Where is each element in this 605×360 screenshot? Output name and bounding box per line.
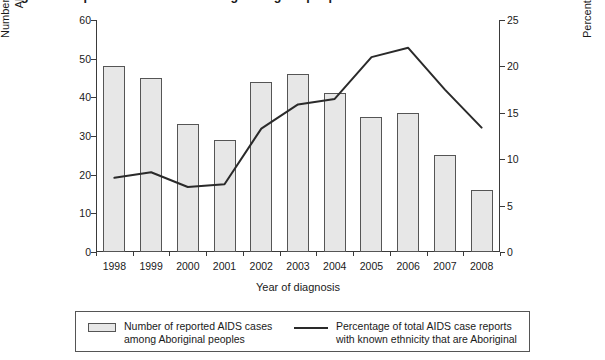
right-tick-label: 10 <box>507 154 519 164</box>
x-tick-mark <box>463 252 464 256</box>
x-tick-label: 2007 <box>433 260 456 272</box>
left-tick-label: 10 <box>79 208 91 218</box>
legend-bar-swatch-icon <box>88 323 116 332</box>
right-tick-mark <box>500 66 505 67</box>
legend-line-text: Percentage of total AIDS case reports wi… <box>336 320 517 346</box>
left-tick-label: 0 <box>85 247 91 257</box>
legend-item-bars: Number of reported AIDS cases among Abor… <box>88 320 272 346</box>
x-tick-label: 2003 <box>286 260 309 272</box>
x-tick-mark <box>133 252 134 256</box>
right-axis-title: Percentage of total AIDS case reports wi… <box>580 0 594 38</box>
x-tick-label: 2002 <box>250 260 273 272</box>
x-tick-label: 2008 <box>470 260 493 272</box>
figure-title-text: Figure — Reported AIDS cases among Abori… <box>10 0 354 3</box>
left-axis-title-line2: Aboriginal peoples <box>12 0 26 38</box>
legend-item-line: Percentage of total AIDS case reports wi… <box>294 320 517 346</box>
chart-figure: Figure — Reported AIDS cases among Abori… <box>0 0 605 360</box>
right-tick-label: 20 <box>507 61 519 71</box>
x-tick-mark <box>427 252 428 256</box>
plot-area: 0102030405060 0510152025 <box>96 20 500 252</box>
x-tick-mark <box>96 252 97 256</box>
x-tick-mark <box>206 252 207 256</box>
x-tick-label: 2004 <box>323 260 346 272</box>
right-tick-label: 0 <box>507 247 513 257</box>
x-tick-label: 2001 <box>213 260 236 272</box>
legend-line-line1: Percentage of total AIDS case reports <box>336 320 517 333</box>
x-tick-label: 1998 <box>103 260 126 272</box>
right-tick-mark <box>500 20 505 21</box>
x-tick-mark <box>169 252 170 256</box>
right-tick-mark <box>500 113 505 114</box>
legend-bar-line1: Number of reported AIDS cases <box>124 320 272 333</box>
left-axis-title-line1: Number of reported AIDS cases among <box>0 0 12 38</box>
right-axis-title-line1: Percentage of total AIDS case reports wi… <box>581 0 593 38</box>
x-tick-label: 1999 <box>139 260 162 272</box>
x-tick-label: 2005 <box>360 260 383 272</box>
left-tick-label: 50 <box>79 54 91 64</box>
x-axis-title: Year of diagnosis <box>96 281 500 293</box>
left-tick-label: 40 <box>79 92 91 102</box>
legend-bar-line2: among Aboriginal peoples <box>124 333 272 346</box>
x-tick-mark <box>316 252 317 256</box>
chart-legend: Number of reported AIDS cases among Abor… <box>75 311 530 352</box>
left-tick-label: 60 <box>79 15 91 25</box>
right-tick-mark <box>500 159 505 160</box>
legend-line-line2: with known ethnicity that are Aboriginal <box>336 333 517 346</box>
right-tick-label: 15 <box>507 108 519 118</box>
right-tick-label: 5 <box>507 201 513 211</box>
x-tick-label: 2006 <box>396 260 419 272</box>
x-tick-mark <box>280 252 281 256</box>
line-series <box>96 20 500 252</box>
x-tick-label: 2000 <box>176 260 199 272</box>
right-tick-mark <box>500 206 505 207</box>
legend-bar-text: Number of reported AIDS cases among Abor… <box>124 320 272 346</box>
right-tick-label: 25 <box>507 15 519 25</box>
left-tick-label: 20 <box>79 170 91 180</box>
x-tick-mark <box>353 252 354 256</box>
left-axis-title: Number of reported AIDS cases among Abor… <box>0 0 26 38</box>
x-tick-mark <box>500 252 501 256</box>
x-tick-mark <box>243 252 244 256</box>
figure-title-cropped: Figure — Reported AIDS cases among Abori… <box>0 0 605 7</box>
left-tick-label: 30 <box>79 131 91 141</box>
percentage-polyline <box>114 48 481 187</box>
x-tick-mark <box>390 252 391 256</box>
legend-line-swatch-icon <box>294 327 328 329</box>
